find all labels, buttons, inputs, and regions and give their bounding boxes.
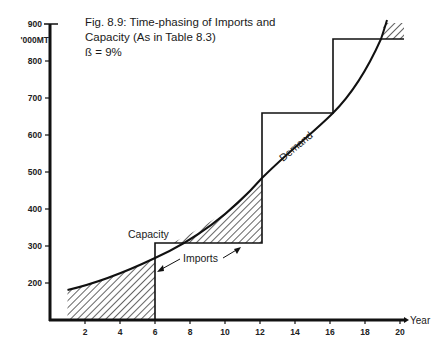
capacity-step-line: [155, 39, 404, 320]
figure-title: Fig. 8.9: Time-phasing of Imports and Ca…: [85, 15, 275, 60]
title-line-3: ß = 9%: [85, 45, 275, 60]
title-line-2: Capacity (As in Table 8.3): [85, 30, 275, 45]
x-tick-10: 10: [220, 327, 230, 337]
y-tick-500: 500: [28, 167, 42, 177]
y-tick-300: 300: [28, 241, 42, 251]
imports-region-1: [68, 258, 156, 320]
x-tick-4: 4: [118, 327, 123, 337]
imports-region-2: [172, 178, 262, 243]
y-tick-400: 400: [28, 204, 42, 214]
y-tick-600: 600: [28, 130, 42, 140]
x-tick-20: 20: [395, 327, 405, 337]
imports-label: Imports: [183, 252, 218, 264]
y-tick-700: 700: [28, 93, 42, 103]
x-tick-16: 16: [325, 327, 335, 337]
y-tick-200: 200: [28, 278, 42, 288]
x-tick-14: 14: [290, 327, 300, 337]
x-axis-arrow-icon: [404, 317, 409, 323]
y-tick-800: 800: [28, 56, 42, 66]
capacity-label: Capacity: [128, 228, 170, 240]
x-axis-label: Year: [410, 315, 431, 326]
x-tick-18: 18: [360, 327, 370, 337]
y-axis: 200 300 400 500 600 700 800 900 '000MT: [21, 19, 58, 321]
imports-shaded-regions: [68, 23, 405, 320]
y-axis-unit: '000MT: [21, 35, 50, 45]
demand-label: Demand: [277, 129, 315, 164]
y-tick-900: 900: [28, 19, 42, 29]
x-tick-6: 6: [153, 327, 158, 337]
x-tick-12: 12: [255, 327, 265, 337]
demand-curve: [68, 20, 388, 290]
title-line-1: Fig. 8.9: Time-phasing of Imports and: [85, 15, 275, 30]
x-tick-8: 8: [188, 327, 193, 337]
arrow-left-icon: [157, 265, 164, 272]
arrow-right-icon: [234, 247, 241, 254]
x-tick-2: 2: [83, 327, 88, 337]
